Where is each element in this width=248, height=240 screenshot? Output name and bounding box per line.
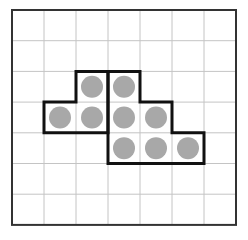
dot (113, 76, 135, 98)
dot (113, 137, 135, 159)
dot (177, 137, 199, 159)
dot (145, 137, 167, 159)
dot (113, 106, 135, 128)
dot (145, 106, 167, 128)
dots-layer (49, 76, 199, 159)
dot (49, 106, 71, 128)
dot (81, 76, 103, 98)
dot (81, 106, 103, 128)
grid-diagram (0, 0, 248, 240)
